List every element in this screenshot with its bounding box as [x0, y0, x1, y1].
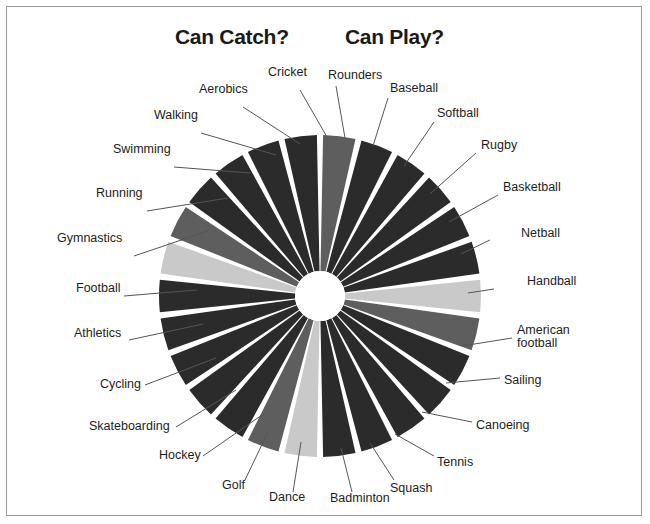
- slice-label-badminton: Badminton: [330, 492, 390, 505]
- leader-line-aerobics: [243, 107, 300, 144]
- slice-label-aerobics: Aerobics: [199, 83, 248, 96]
- slice-label-american: Americanfootball: [517, 324, 570, 350]
- slice-label-cycling: Cycling: [100, 378, 141, 391]
- slice-label-squash: Squash: [390, 482, 432, 495]
- donut-center-hole: [295, 271, 345, 321]
- slice-label-football: Football: [76, 282, 120, 295]
- slice-label-softball: Softball: [437, 107, 479, 120]
- slice-label-gymnastics: Gymnastics: [57, 232, 122, 245]
- leader-line-tennis: [395, 434, 434, 456]
- slice-label-athletics: Athletics: [74, 327, 121, 340]
- leader-line-canoeing: [422, 412, 472, 422]
- slice-label-hockey: Hockey: [159, 449, 201, 462]
- slice-label-canoeing: Canoeing: [476, 419, 530, 432]
- leader-line-cricket: [300, 90, 327, 137]
- slice-label-baseball: Baseball: [390, 82, 438, 95]
- slice-label-handball: Handball: [527, 275, 576, 288]
- leader-line-walking: [201, 133, 276, 155]
- leader-line-rugby: [430, 153, 476, 194]
- leader-line-softball: [404, 122, 434, 166]
- leader-line-rounders: [336, 86, 345, 138]
- slice-label-basketball: Basketball: [503, 181, 561, 194]
- slice-label-tennis: Tennis: [437, 456, 473, 469]
- leader-line-squash: [370, 443, 394, 480]
- pie-svg: [0, 0, 650, 524]
- donut-chart: [0, 0, 650, 524]
- leader-line-baseball: [373, 98, 388, 146]
- slice-label-dance: Dance: [269, 491, 305, 504]
- slice-label-swimming: Swimming: [113, 143, 171, 156]
- slice-label-rounders: Rounders: [328, 69, 382, 82]
- slice-label-american-line2: football: [517, 337, 570, 350]
- slice-label-golf: Golf: [222, 479, 245, 492]
- slice-label-skateboarding: Skateboarding: [89, 420, 170, 433]
- slice-label-netball: Netball: [521, 227, 560, 240]
- slice-label-running: Running: [96, 187, 143, 200]
- slice-label-walking: Walking: [154, 109, 198, 122]
- slice-label-cricket: Cricket: [268, 66, 307, 79]
- slice-label-sailing: Sailing: [504, 374, 542, 387]
- slice-label-rugby: Rugby: [481, 139, 517, 152]
- leader-line-basketball: [449, 195, 498, 222]
